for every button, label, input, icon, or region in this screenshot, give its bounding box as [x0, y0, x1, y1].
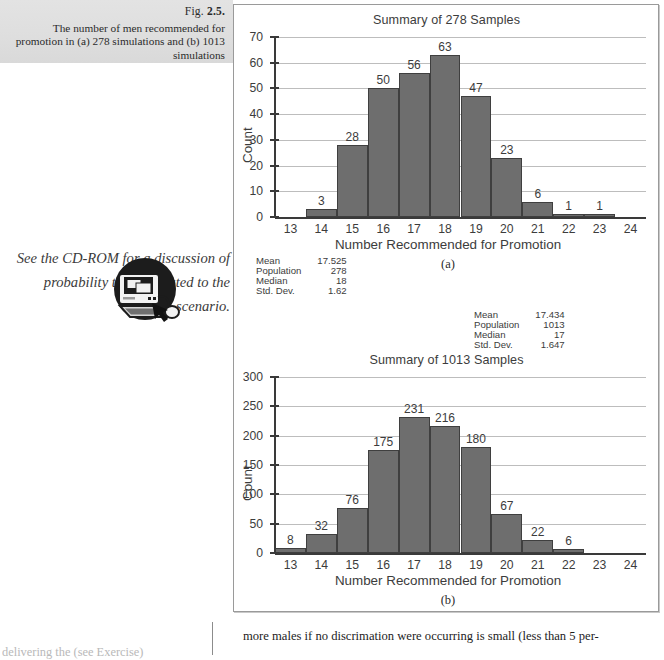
- x-axis-tick-label: 24: [624, 222, 638, 236]
- bar-value-label: 28: [346, 130, 359, 144]
- bar-value-label: 216: [435, 411, 455, 425]
- x-axis-tick-label: 22: [562, 558, 576, 572]
- x-axis-tick-label: 16: [376, 558, 390, 572]
- stats-row: Std. Dev.1.647: [474, 340, 565, 350]
- stats-row: Std. Dev.1.62: [256, 286, 347, 296]
- y-axis-tick: [270, 405, 279, 407]
- y-axis-tick-label: 60: [223, 56, 263, 70]
- bar-value-label: 6: [534, 187, 541, 201]
- y-axis-tick-label: 150: [223, 458, 263, 472]
- histogram-bar: [306, 209, 337, 217]
- bar-value-label: 1: [596, 199, 603, 213]
- column-rule: [212, 622, 213, 655]
- stats-table: Mean17.525Population278Median18Std. Dev.…: [256, 256, 347, 296]
- gridline: [275, 88, 646, 89]
- stats-value: 1.62: [317, 286, 346, 296]
- x-axis-tick-label: 14: [315, 558, 329, 572]
- y-axis-tick-label: 20: [223, 159, 263, 173]
- y-axis-tick: [270, 62, 279, 64]
- x-axis-tick-label: 19: [469, 222, 483, 236]
- chart-summary-278: Summary of 278 Samples Count 32850566347…: [234, 13, 659, 273]
- y-axis-tick-label: 300: [223, 370, 263, 384]
- x-axis-tick-label: 23: [593, 222, 607, 236]
- histogram-bar: [306, 534, 337, 553]
- y-axis-tick-label: 100: [223, 487, 263, 501]
- bar-value-label: 32: [315, 519, 328, 533]
- x-axis-tick-label: 15: [346, 558, 360, 572]
- y-axis-tick-label: 0: [223, 210, 263, 224]
- chart-b-x-axis-title: Number Recommended for Promotion: [248, 573, 648, 588]
- y-axis-tick-label: 200: [223, 429, 263, 443]
- bar-value-label: 56: [407, 58, 420, 72]
- x-axis-tick-label: 17: [407, 558, 421, 572]
- y-axis-tick-label: 70: [223, 30, 263, 44]
- chart-summary-1013: Summary of 1013 Samples Count 8327617523…: [234, 353, 659, 608]
- gridline: [275, 406, 646, 407]
- histogram-bar: [491, 158, 522, 217]
- y-axis-tick: [270, 139, 279, 141]
- y-axis-tick-label: 50: [223, 517, 263, 531]
- histogram-bar: [430, 426, 461, 553]
- bar-value-label: 23: [500, 143, 513, 157]
- x-axis-tick-label: 19: [469, 558, 483, 572]
- x-axis-tick-label: 20: [500, 558, 514, 572]
- bar-value-label: 67: [500, 499, 513, 513]
- histogram-bar: [522, 540, 553, 553]
- x-axis-tick-label: 21: [531, 222, 545, 236]
- x-axis-tick-label: 18: [438, 222, 452, 236]
- histogram-bar: [399, 417, 430, 553]
- bar-value-label: 63: [438, 40, 451, 54]
- body-paragraph: more males if no discrimation were occur…: [243, 629, 658, 644]
- y-axis-tick-label: 0: [223, 546, 263, 560]
- chart-a-x-axis-title: Number Recommended for Promotion: [248, 237, 648, 252]
- chart-b-plot-area: 8327617523121618067226050100150200250300…: [275, 377, 646, 553]
- x-axis-tick-label: 22: [562, 222, 576, 236]
- y-axis-tick: [270, 165, 279, 167]
- y-axis-tick: [270, 464, 279, 466]
- x-axis-tick-label: 17: [407, 222, 421, 236]
- x-axis-tick-label: 14: [315, 222, 329, 236]
- figure-caption-text: The number of men recommended for promot…: [13, 22, 225, 62]
- x-axis-tick-label: 18: [438, 558, 452, 572]
- stats-table: Mean17.434Population1013Median17Std. Dev…: [474, 310, 565, 350]
- x-axis-line: [275, 217, 646, 219]
- bar-value-label: 175: [373, 435, 393, 449]
- bar-value-label: 1: [565, 199, 572, 213]
- y-axis-tick: [270, 87, 279, 89]
- y-axis-tick-label: 40: [223, 107, 263, 121]
- stats-value: 1.647: [535, 340, 564, 350]
- histogram-bar: [461, 96, 492, 217]
- bar-value-label: 50: [377, 73, 390, 87]
- bar-value-label: 8: [287, 533, 294, 547]
- y-axis-tick: [270, 36, 279, 38]
- bar-value-label: 3: [318, 194, 325, 208]
- y-axis-tick: [270, 435, 279, 437]
- histogram-bar: [430, 55, 461, 217]
- bar-value-label: 6: [565, 534, 572, 548]
- bar-value-label: 22: [531, 525, 544, 539]
- y-axis-tick-label: 250: [223, 399, 263, 413]
- x-axis-tick-label: 13: [284, 558, 298, 572]
- histogram-bar: [522, 202, 553, 217]
- figure-box: Summary of 278 Samples Count 32850566347…: [233, 4, 659, 612]
- y-axis-tick-label: 10: [223, 184, 263, 198]
- x-axis-tick-label: 15: [346, 222, 360, 236]
- stats-key: Std. Dev.: [256, 286, 317, 296]
- chart-a-plot-area: 3285056634723611010203040506070131415161…: [275, 37, 646, 217]
- bar-value-label: 76: [346, 493, 359, 507]
- x-axis-tick-label: 24: [624, 558, 638, 572]
- chart-b-panel-letter: (b): [248, 593, 648, 608]
- x-axis-tick-label: 20: [500, 222, 514, 236]
- y-axis-tick: [270, 523, 279, 525]
- bar-value-label: 180: [466, 432, 486, 446]
- histogram-bar: [461, 447, 492, 553]
- y-axis-tick: [270, 493, 279, 495]
- figure-number-prefix: Fig.: [185, 5, 207, 17]
- x-axis-tick-label: 16: [376, 222, 390, 236]
- y-axis-tick-label: 30: [223, 133, 263, 147]
- cd-rom-computer-icon: [112, 256, 182, 328]
- histogram-bar: [399, 73, 430, 217]
- left-column-text-fragment: delivering the (see Exercise): [2, 645, 207, 660]
- x-axis-tick-label: 23: [593, 558, 607, 572]
- histogram-bar: [368, 450, 399, 553]
